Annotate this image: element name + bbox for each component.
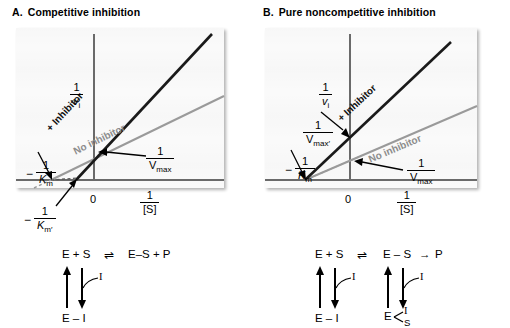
- scheme-a-top-right: E–S + P: [128, 248, 171, 260]
- scheme-b-down-arrow-left: [331, 300, 339, 309]
- km-num-a: 1: [40, 160, 52, 172]
- vmax-label-a: 1 Vmax: [146, 146, 174, 174]
- scheme-a-top-left: E + S: [62, 248, 91, 260]
- kmprime-arrow-line-a: [56, 186, 72, 206]
- scheme-a-inhibitor-label: I: [99, 271, 103, 282]
- x-axis-label-a: 1 [S]: [140, 190, 159, 215]
- km-den-a: Km: [36, 172, 56, 188]
- scheme-a-inhibitor-curve: [83, 278, 98, 288]
- y-axis-num-b: 1: [320, 82, 332, 94]
- km-prime-den-a: Km′: [34, 218, 56, 234]
- panel-b-title-text: Pure noncompetitive inhibition: [279, 6, 436, 18]
- y-axis-label-b: 1 vi: [319, 82, 332, 110]
- vmax-num-a: 1: [154, 146, 166, 158]
- km-label-a: − 1 Km: [26, 160, 56, 188]
- scheme-b-top-mid: E – S: [383, 248, 411, 260]
- scheme-b-inhibitor-curve-right: [404, 278, 419, 288]
- vmax-label-b: 1 Vmax: [407, 158, 435, 186]
- scheme-b-bottom-right-s: S: [404, 317, 410, 328]
- km-den-b: Km: [295, 168, 315, 184]
- km-prime-num-a: 1: [39, 206, 51, 218]
- panel-a-title: A.Competitive inhibition: [12, 6, 140, 18]
- scheme-b-bottom-left: E – I: [315, 312, 339, 324]
- line-plus-inhibitor-a: [76, 34, 212, 180]
- scheme-b-up-arrow-left: [316, 266, 324, 275]
- origin-label-a: 0: [90, 193, 96, 205]
- km-minus-b: −: [285, 163, 292, 177]
- origin-label-b: 0: [345, 193, 351, 205]
- x-axis-num-a: 1: [144, 190, 156, 202]
- y-axis-den-b: vi: [319, 94, 332, 110]
- vmax-num-b: 1: [415, 158, 427, 170]
- panel-noncompetitive-inhibition: B.Pure noncompetitive inhibition: [255, 0, 510, 328]
- panel-competitive-inhibition: A.Competitive inhibition: [0, 0, 255, 328]
- scheme-b-equilibrium: ⇌: [357, 249, 367, 261]
- vmax-prime-label-b: 1 Vmax′: [303, 120, 333, 148]
- scheme-b-top-left: E + S: [315, 248, 344, 260]
- scheme-b-bottom-right-e: E: [384, 310, 392, 322]
- vmax-arrow-line-a: [106, 152, 146, 156]
- scheme-a-up-arrow: [63, 266, 71, 275]
- y-axis-den-a: vi: [70, 94, 83, 110]
- km-minus-a: −: [26, 167, 33, 181]
- vmax-den-b: Vmax: [407, 170, 435, 186]
- reaction-scheme-a: E + S ⇌ E–S + P I E – I: [62, 246, 212, 324]
- km-num-b: 1: [299, 156, 311, 168]
- x-axis-num-b: 1: [401, 190, 413, 202]
- figure-container: A.Competitive inhibition: [0, 0, 510, 328]
- panel-a-title-text: Competitive inhibition: [28, 6, 140, 18]
- scheme-b-inhibitor-curve-left: [336, 278, 351, 288]
- scheme-b-inhibitor-label-left: I: [352, 271, 356, 282]
- x-axis-den-a: [S]: [140, 202, 159, 215]
- vmax-den-a: Vmax: [146, 158, 174, 174]
- km-prime-minus-a: −: [24, 213, 31, 227]
- x-axis-den-b: [S]: [397, 202, 416, 215]
- scheme-b-product-arrow: →: [419, 248, 431, 260]
- vmax-prime-den-b: Vmax′: [303, 132, 333, 148]
- vmax-prime-num-b: 1: [312, 120, 324, 132]
- scheme-a-down-arrow: [78, 300, 86, 309]
- y-axis-label-a: 1 vi: [70, 82, 83, 110]
- scheme-b-inhibitor-label-right: I: [420, 271, 424, 282]
- panel-b-letter: B.: [263, 6, 274, 18]
- y-axis-num-a: 1: [71, 82, 83, 94]
- scheme-b-up-arrow-right: [384, 266, 392, 275]
- panel-b-title: B.Pure noncompetitive inhibition: [263, 6, 436, 18]
- vmax-arrow-line-b: [362, 162, 403, 170]
- scheme-a-bottom-left: E – I: [62, 312, 86, 324]
- scheme-b-top-right: P: [435, 248, 443, 260]
- scheme-a-equilibrium: ⇌: [104, 249, 114, 261]
- km-prime-label-a: − 1 Km′: [24, 206, 56, 234]
- scheme-b-bottom-right-i: I: [404, 305, 408, 316]
- reaction-scheme-b: E + S ⇌ E – S → P I E – I I: [315, 246, 495, 324]
- panel-a-letter: A.: [12, 6, 23, 18]
- x-axis-label-b: 1 [S]: [397, 190, 416, 215]
- km-label-b: − 1 Km: [285, 156, 315, 184]
